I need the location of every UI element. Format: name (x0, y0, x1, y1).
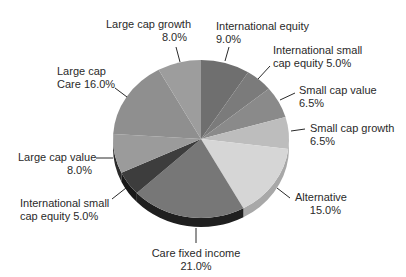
leader-line (112, 188, 126, 199)
slice-label: Care fixed income21.0% (152, 247, 241, 272)
slice-label: Large cap growth8.0% (106, 18, 191, 43)
slice-label-name: Large cap growth (106, 18, 191, 30)
slice-label-name: International equity (216, 20, 309, 32)
slice-label-value: 21.0% (180, 260, 211, 272)
leader-line (258, 66, 270, 79)
slice-label: International smallcap equity 5.0% (273, 44, 362, 69)
slice-label-value: cap equity 5.0% (20, 210, 98, 222)
slice-label-name: Alternative (295, 191, 347, 203)
slice-label-name: International small (273, 44, 362, 56)
leader-line (176, 47, 180, 62)
slice-label: Small cap growth6.5% (310, 122, 394, 147)
slice-label-name: International small (20, 197, 109, 209)
pie-slices (113, 60, 289, 218)
slice-label-value: 8.0% (162, 31, 187, 43)
slice-label: International equity9.0% (216, 20, 309, 45)
slice-label-value: 6.5% (310, 135, 335, 147)
slice-label: International smallcap equity 5.0% (20, 197, 109, 222)
slice-label-value: Care 16.0% (57, 78, 115, 90)
leader-line (115, 88, 127, 97)
slice-label: Large capCare 16.0% (57, 65, 115, 90)
slice-label: Small cap value6.5% (299, 84, 377, 109)
slice-label-name: Care fixed income (152, 247, 241, 259)
slice-label-name: Small cap value (299, 84, 377, 96)
slice-label-value: 15.0% (310, 204, 341, 216)
slice-label-name: Small cap growth (310, 122, 394, 134)
leader-line (291, 129, 305, 131)
slice-label: Large cap value8.0% (18, 151, 96, 176)
slice-label-value: 8.0% (67, 164, 92, 176)
slice-label-value: cap equity 5.0% (273, 57, 351, 69)
slice-label-value: 9.0% (216, 33, 241, 45)
slice-label-name: Large cap (57, 65, 106, 77)
slice-label-value: 6.5% (299, 97, 324, 109)
leader-line (277, 188, 290, 198)
slice-label: Alternative15.0% (295, 191, 347, 216)
leader-line (225, 47, 229, 61)
leader-line (280, 93, 295, 100)
pie-chart: International equity9.0%International sm… (0, 0, 406, 277)
slice-label-name: Large cap value (18, 151, 96, 163)
